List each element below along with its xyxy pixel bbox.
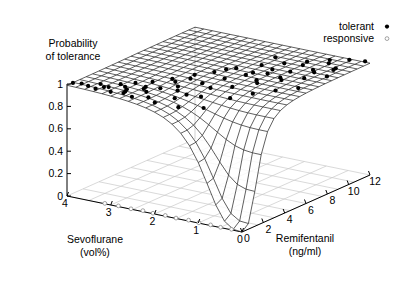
marker-tolerant (212, 70, 216, 74)
marker-tolerant (331, 68, 335, 72)
marker-tolerant (301, 63, 305, 67)
marker-tolerant (102, 85, 106, 89)
marker-tolerant (251, 71, 255, 75)
marker-tolerant (144, 85, 148, 89)
marker-tolerant (230, 85, 234, 89)
marker-tolerant (188, 77, 192, 81)
marker-tolerant (123, 85, 127, 89)
sevoflurane-tick-label: 4 (62, 197, 68, 209)
marker-tolerant (296, 86, 300, 90)
sevoflurane-axis-title-line2: (vol%) (80, 246, 110, 258)
sevoflurane-tick-label: 2 (150, 215, 156, 227)
probability-tick-label: 0.8 (48, 100, 63, 112)
marker-tolerant (228, 96, 232, 100)
marker-tolerant (302, 76, 306, 80)
marker-tolerant (288, 70, 292, 74)
marker-tolerant (130, 95, 134, 99)
sevoflurane-tick-label: 1 (193, 224, 199, 236)
marker-responsive (209, 223, 213, 227)
probability-tick-label: 1 (57, 78, 63, 90)
legend-marker-responsive (385, 37, 389, 41)
marker-responsive (103, 201, 107, 205)
marker-tolerant (80, 81, 84, 85)
remifentanil-axis-title-line1: Remifentanil (276, 232, 334, 244)
marker-tolerant (278, 76, 282, 80)
marker-tolerant (200, 81, 204, 85)
remifentanil-tick-label: 6 (308, 204, 314, 216)
remifentanil-tick-label: 4 (287, 213, 293, 225)
marker-tolerant (86, 84, 90, 88)
marker-tolerant (325, 74, 329, 78)
remifentanil-axis-title-line2: (ng/ml) (289, 245, 322, 257)
remifentanil-tick-label: 12 (369, 175, 381, 187)
marker-tolerant (109, 90, 113, 94)
probability-axis-title-line2: of tolerance (46, 50, 101, 62)
sevoflurane-tick-label: 3 (106, 206, 112, 218)
marker-tolerant (107, 85, 111, 89)
marker-tolerant (251, 92, 255, 96)
marker-tolerant (312, 70, 316, 74)
marker-tolerant (327, 61, 331, 65)
marker-tolerant (234, 66, 238, 70)
marker-tolerant (158, 86, 162, 90)
marker-tolerant (184, 93, 188, 97)
marker-responsive (230, 227, 234, 231)
marker-tolerant (153, 101, 157, 105)
marker-tolerant (146, 95, 150, 99)
figure-3d-surface-plot: 00.20.40.60.8143210024681012 tolerantres… (0, 0, 409, 281)
marker-tolerant (244, 73, 248, 77)
probability-axis-title-line1: Probability (48, 37, 98, 49)
marker-tolerant (150, 80, 154, 84)
marker-responsive (129, 207, 133, 211)
remifentanil-tick-mark (262, 219, 264, 223)
marker-tolerant (71, 81, 75, 85)
remifentanil-tick-label: 8 (329, 194, 335, 206)
marker-tolerant (202, 106, 206, 110)
marker-tolerant (208, 86, 212, 90)
legend: tolerantresponsive (323, 20, 389, 44)
sevoflurane-axis-title-line1: Sevoflurane (67, 233, 123, 245)
marker-tolerant (224, 67, 228, 71)
marker-responsive (187, 218, 191, 222)
marker-responsive (116, 204, 120, 208)
marker-tolerant (273, 88, 277, 92)
marker-tolerant (199, 95, 203, 99)
marker-tolerant (265, 71, 269, 75)
marker-tolerant (173, 80, 177, 84)
marker-tolerant (175, 89, 179, 93)
marker-tolerant (99, 82, 103, 86)
remifentanil-tick-mark (326, 190, 328, 194)
marker-tolerant (144, 90, 148, 94)
floor-gridline-remi (115, 175, 290, 211)
marker-tolerant (223, 76, 227, 80)
marker-tolerant (347, 58, 351, 62)
marker-tolerant (363, 59, 367, 63)
legend-marker-tolerant (385, 25, 389, 29)
marker-tolerant (305, 60, 309, 64)
remifentanil-tick-label: 0 (244, 232, 250, 244)
marker-responsive (141, 209, 145, 213)
legend-label-responsive: responsive (323, 32, 374, 44)
marker-tolerant (176, 84, 180, 88)
probability-tick-label: 0.4 (48, 145, 63, 157)
marker-tolerant (133, 81, 137, 85)
marker-tolerant (176, 105, 180, 109)
marker-responsive (219, 225, 223, 229)
marker-tolerant (254, 78, 258, 82)
marker-responsive (163, 214, 167, 218)
marker-tolerant (93, 87, 97, 91)
marker-tolerant (193, 73, 197, 77)
marker-tolerant (270, 67, 274, 71)
marker-tolerant (282, 61, 286, 65)
marker-tolerant (273, 55, 277, 59)
marker-tolerant (173, 96, 177, 100)
legend-label-tolerant: tolerant (339, 20, 374, 32)
remifentanil-tick-label: 2 (265, 223, 271, 235)
marker-tolerant (119, 82, 123, 86)
plot-canvas: 00.20.40.60.8143210024681012 tolerantres… (0, 0, 409, 281)
marker-responsive (174, 216, 178, 220)
remifentanil-tick-label: 10 (348, 185, 360, 197)
sevoflurane-tick-label: 0 (237, 233, 243, 245)
marker-tolerant (123, 89, 127, 93)
probability-tick-label: 0.6 (48, 122, 63, 134)
